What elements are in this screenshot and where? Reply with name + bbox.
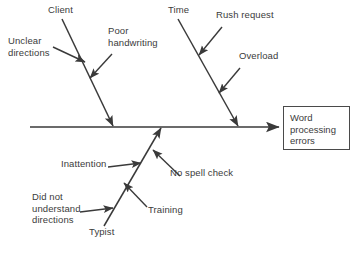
effect-label: Word processing errors	[290, 112, 348, 147]
cause-arrow-did-not-understand-directions	[80, 208, 113, 212]
branch-label-typist: Typist	[89, 226, 114, 238]
cause-label-rush-request: Rush request	[216, 9, 274, 21]
cause-label-did-not-understand-directions: Did not understand directions	[32, 191, 81, 226]
cause-label-overload: Overload	[239, 50, 278, 62]
effect-box: Word processing errors	[283, 106, 350, 150]
cause-arrow-training	[124, 183, 147, 207]
branch-label-time: Time	[168, 4, 189, 16]
branch-label-client: Client	[48, 4, 73, 16]
cause-label-training: Training	[148, 204, 183, 216]
cause-arrow-overload	[219, 68, 240, 93]
cause-arrow-unclear-directions	[53, 47, 85, 62]
branch-bone-client	[62, 19, 113, 126]
cause-label-poor-handwriting: Poor handwriting	[108, 25, 158, 48]
cause-label-inattention: Inattention	[61, 158, 106, 170]
cause-label-no-spell-check: No spell check	[170, 167, 233, 179]
branch-bone-time	[178, 19, 238, 126]
cause-arrow-inattention	[108, 163, 141, 167]
cause-label-unclear-directions: Unclear directions	[8, 35, 50, 58]
cause-arrow-rush-request	[199, 27, 222, 55]
fishbone-diagram: Client Time Typist Unclear directions Po…	[0, 0, 362, 255]
cause-arrow-poor-handwriting	[90, 54, 112, 78]
